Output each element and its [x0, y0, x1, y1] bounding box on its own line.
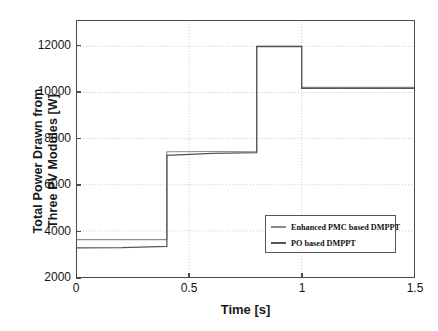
y-axis-title-line-1: Total Power Drawn from — [31, 31, 46, 291]
y-tick-label: 12000 — [5, 38, 71, 52]
y-tick-mark — [76, 91, 81, 92]
y-tick-mark — [76, 231, 81, 232]
y-axis-title-line-2: Three PV Modules [W] — [46, 31, 61, 291]
legend-label-enhanced-pmc: Enhanced PMC based DMPPT — [291, 223, 400, 232]
x-axis-title: Time [s] — [76, 302, 415, 317]
y-tick-mark — [76, 45, 81, 46]
x-tick-mark — [301, 273, 302, 278]
legend-item-po: PO based DMPPT — [271, 235, 391, 251]
x-tick-label: 1.5 — [391, 281, 438, 295]
chart-legend: Enhanced PMC based DMPPT PO based DMPPT — [265, 215, 396, 253]
y-axis-title: Total Power Drawn from Three PV Modules … — [31, 31, 61, 291]
y-tick-mark — [76, 277, 81, 278]
y-tick-label: 4000 — [5, 224, 71, 238]
y-tick-label: 8000 — [5, 131, 71, 145]
x-tick-label: 0.5 — [165, 281, 213, 295]
x-tick-label: 0 — [52, 281, 100, 295]
y-tick-mark — [76, 138, 81, 139]
y-tick-label: 10000 — [5, 84, 71, 98]
chart-figure: Total Power Drawn from Three PV Modules … — [0, 0, 438, 331]
x-tick-label: 1 — [278, 281, 326, 295]
series-line-0 — [77, 46, 414, 239]
x-tick-mark — [188, 273, 189, 278]
y-tick-label: 6000 — [5, 177, 71, 191]
legend-item-enhanced-pmc: Enhanced PMC based DMPPT — [271, 219, 391, 235]
y-tick-mark — [76, 184, 81, 185]
legend-label-po: PO based DMPPT — [291, 239, 356, 248]
legend-swatch-po — [271, 242, 286, 243]
legend-swatch-enhanced-pmc — [271, 226, 286, 227]
